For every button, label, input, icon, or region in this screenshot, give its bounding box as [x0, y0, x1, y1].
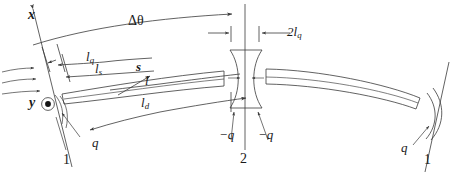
- dim-l-d: [90, 98, 246, 130]
- beam-inner-ray-right: [266, 77, 418, 103]
- left-station-plane: [33, 9, 72, 167]
- charge-leader-left-q: [62, 113, 80, 137]
- station-label-right: 1: [424, 153, 431, 167]
- right-charge-q-label: q: [401, 141, 408, 154]
- station-label-left: 1: [63, 153, 70, 167]
- dim-two-l-q: [208, 26, 290, 42]
- l-d-label-sub: d: [145, 101, 149, 111]
- left-charge-q-label: q: [92, 136, 99, 149]
- y-axis-label: y: [29, 96, 35, 110]
- beam-envelope-right: [266, 69, 420, 109]
- l-q-label-sub: q: [90, 55, 94, 65]
- charge-leader-right-q: [413, 126, 429, 145]
- delta-theta-label: Δθ: [128, 13, 144, 28]
- figure-canvas: x y Δθ lq ls s l ld 2lq q −q −q q 1 2 1: [0, 0, 460, 177]
- x-axis-label: x: [28, 8, 35, 22]
- left-incoming-wavefront-arcs: [2, 68, 40, 94]
- y-axis-out-of-page-marker: [42, 98, 55, 111]
- vector-s-label: s: [136, 60, 141, 73]
- two-l-q-label-sub: q: [297, 30, 301, 40]
- l-s-label-sub: s: [99, 67, 102, 77]
- station-label-center: 2: [240, 152, 247, 166]
- l-label-base: l: [145, 73, 149, 88]
- center-charge-minus-q-left-label: −q: [219, 128, 234, 141]
- two-l-q-label-base: 2l: [287, 24, 297, 39]
- diagram-vector-layer: [0, 0, 460, 177]
- center-charge-minus-q-right-label: −q: [258, 128, 273, 141]
